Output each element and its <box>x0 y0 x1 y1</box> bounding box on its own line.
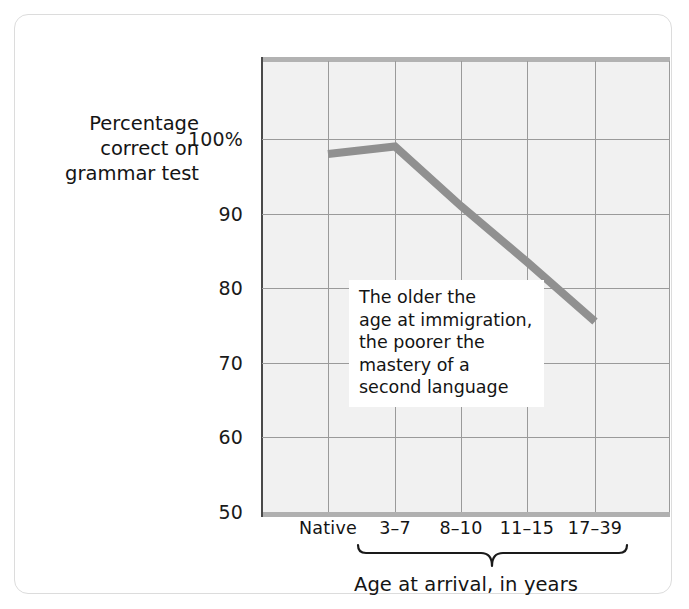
brace-icon <box>355 543 630 569</box>
y-tick-label-80: 80 <box>218 277 243 299</box>
annotation-callout: The older the age at immigration, the po… <box>349 280 544 407</box>
x-tick-label-3-7: 3–7 <box>379 518 411 538</box>
y-tick-label-60: 60 <box>218 426 243 448</box>
y-axis-tick-labels: 100% 90 80 70 60 50 <box>165 61 253 512</box>
x-tick-label-native: Native <box>299 518 357 538</box>
x-axis-band <box>261 512 670 517</box>
y-tick-label-100: 100% <box>188 128 243 150</box>
figure-card: Percentage correct on grammar test 100% … <box>14 14 672 594</box>
x-axis-title: Age at arrival, in years <box>262 573 670 596</box>
x-tick-label-11-15: 11–15 <box>500 518 554 538</box>
x-tick-label-17-39: 17–39 <box>568 518 622 538</box>
y-tick-label-50: 50 <box>218 501 243 523</box>
x-tick-label-8-10: 8–10 <box>440 518 483 538</box>
y-tick-label-70: 70 <box>218 352 243 374</box>
x-axis-group-brace <box>355 543 630 569</box>
y-tick-label-90: 90 <box>218 203 243 225</box>
